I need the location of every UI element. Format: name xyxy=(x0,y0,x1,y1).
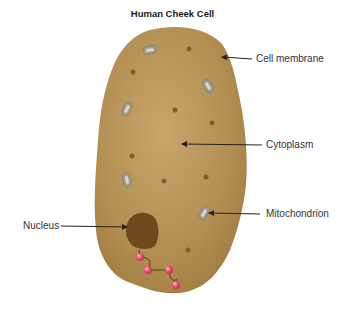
cell-diagram xyxy=(0,0,345,310)
cell-membrane xyxy=(95,27,247,293)
label-cell-membrane: Cell membrane xyxy=(256,53,324,64)
nucleus xyxy=(126,213,159,249)
label-cytoplasm: Cytoplasm xyxy=(266,139,313,150)
label-nucleus: Nucleus xyxy=(23,220,59,231)
label-mitochondrion: Mitochondrion xyxy=(266,208,329,219)
